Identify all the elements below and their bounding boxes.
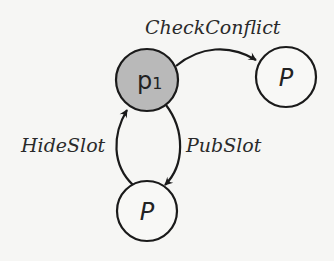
- edge-hide-slot: [116, 110, 133, 185]
- node-p-right-label: P: [279, 64, 294, 92]
- edge-check-conflict: [176, 49, 256, 66]
- state-diagram: p1 P P CheckConflict PubSlot HideSlot: [0, 0, 334, 261]
- node-p1[interactable]: p1: [116, 49, 178, 111]
- node-p-right[interactable]: P: [256, 47, 316, 107]
- node-p-bottom-label: P: [140, 198, 155, 226]
- edge-pub-slot: [165, 105, 180, 185]
- diagram-canvas: p1 P P CheckConflict PubSlot HideSlot: [0, 0, 334, 261]
- edge-label-check-conflict: CheckConflict: [145, 16, 281, 38]
- node-p-bottom[interactable]: P: [117, 181, 177, 241]
- edge-label-hide-slot: HideSlot: [20, 134, 106, 156]
- edge-label-pub-slot: PubSlot: [185, 134, 262, 156]
